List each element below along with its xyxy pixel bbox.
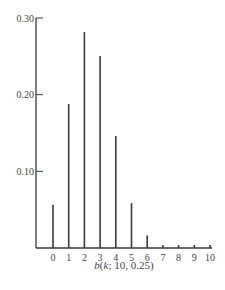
x-tick-label: 0 bbox=[51, 252, 56, 263]
stem-bars bbox=[53, 32, 210, 248]
y-axis-ticks: 0.100.200.30 bbox=[17, 13, 44, 177]
y-tick-label: 0.10 bbox=[17, 166, 35, 177]
x-tick-label: 7 bbox=[160, 252, 165, 263]
x-tick-label: 2 bbox=[82, 252, 87, 263]
x-tick-label: 1 bbox=[66, 252, 71, 263]
y-tick-label: 0.20 bbox=[17, 89, 35, 100]
x-tick-label: 9 bbox=[192, 252, 197, 263]
y-tick-label: 0.30 bbox=[17, 13, 35, 24]
x-axis-label: b(k; 10, 0.25) bbox=[94, 259, 154, 272]
axes bbox=[36, 18, 212, 248]
x-tick-label: 10 bbox=[205, 252, 215, 263]
binomial-chart: 0.100.200.30 012345678910 b(k; 10, 0.25) bbox=[0, 0, 225, 290]
x-tick-label: 8 bbox=[176, 252, 181, 263]
